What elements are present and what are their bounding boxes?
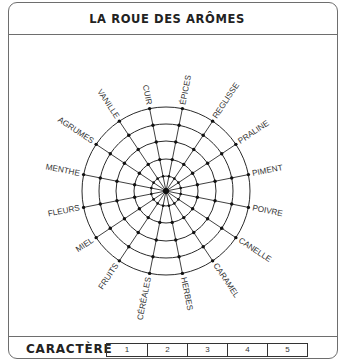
rating-dot[interactable] (173, 177, 176, 180)
aroma-label: MENTHE (45, 162, 81, 178)
aroma-label: CANELLE (237, 236, 273, 265)
rating-dot[interactable] (230, 202, 233, 205)
rating-dot[interactable] (99, 176, 102, 179)
rating-dot[interactable] (109, 152, 112, 155)
rating-dot[interactable] (213, 199, 216, 202)
wheel-intersection-dots[interactable] (82, 107, 250, 275)
rating-dot[interactable] (123, 162, 126, 165)
rating-dot[interactable] (148, 272, 151, 275)
rating-dot[interactable] (151, 124, 154, 127)
aroma-label: REGLISSE (211, 81, 242, 120)
rating-dot[interactable] (158, 158, 161, 161)
rating-dot[interactable] (192, 148, 195, 151)
rating-dot[interactable] (174, 140, 177, 143)
center-dot (163, 188, 169, 194)
rating-dot[interactable] (177, 198, 180, 201)
rating-dot[interactable] (191, 172, 194, 175)
rating-dot[interactable] (182, 163, 185, 166)
rating-dot[interactable] (230, 176, 233, 179)
rating-dot[interactable] (127, 134, 130, 137)
rating-dot[interactable] (196, 183, 199, 186)
aroma-label: PRALINE (236, 118, 271, 145)
rating-dot[interactable] (147, 163, 150, 166)
rating-dot[interactable] (118, 259, 121, 262)
rating-dot[interactable] (127, 245, 130, 248)
rating-dot[interactable] (211, 259, 214, 262)
rating-dot[interactable] (94, 236, 97, 239)
aroma-label: VANILLE (95, 88, 121, 121)
rating-dot[interactable] (181, 272, 184, 275)
rating-dot[interactable] (196, 196, 199, 199)
rating-dot[interactable] (234, 236, 237, 239)
rating-dot[interactable] (220, 227, 223, 230)
rating-dot[interactable] (177, 255, 180, 258)
aroma-label: MIEL (74, 236, 95, 254)
rating-dot[interactable] (151, 255, 154, 258)
rating-dot[interactable] (171, 158, 174, 161)
rating-dot[interactable] (162, 175, 165, 178)
rating-dot[interactable] (171, 221, 174, 224)
rating-dot[interactable] (177, 181, 180, 184)
rating-dot[interactable] (206, 162, 209, 165)
rating-dot[interactable] (168, 175, 171, 178)
rating-dot[interactable] (213, 180, 216, 183)
rating-dot[interactable] (202, 134, 205, 137)
rating-dot[interactable] (247, 173, 250, 176)
rating-dot[interactable] (156, 177, 159, 180)
rating-dot[interactable] (137, 231, 140, 234)
rating-dot[interactable] (94, 143, 97, 146)
rating-dot[interactable] (150, 193, 153, 196)
rating-dot[interactable] (179, 187, 182, 190)
rating-dot[interactable] (192, 231, 195, 234)
rating-dot[interactable] (82, 173, 85, 176)
rating-dot[interactable] (158, 221, 161, 224)
rating-dot[interactable] (155, 140, 158, 143)
aroma-label: CÉRÉALES (135, 276, 153, 321)
rating-dot[interactable] (123, 217, 126, 220)
rating-dot[interactable] (202, 245, 205, 248)
rating-dot[interactable] (155, 238, 158, 241)
aroma-label: AGRUMES (56, 115, 96, 146)
rating-dot[interactable] (133, 183, 136, 186)
rating-dot[interactable] (179, 193, 182, 196)
rating-dot[interactable] (181, 107, 184, 110)
rating-dot[interactable] (147, 216, 150, 219)
aroma-label: CUIR (141, 84, 154, 105)
rating-dot[interactable] (156, 202, 159, 205)
rating-dot[interactable] (109, 227, 112, 230)
rating-dot[interactable] (82, 206, 85, 209)
rating-dot[interactable] (99, 202, 102, 205)
rating-dot[interactable] (118, 119, 121, 122)
rating-dot[interactable] (138, 207, 141, 210)
rating-dot[interactable] (148, 107, 151, 110)
rating-dot[interactable] (174, 238, 177, 241)
rating-dot[interactable] (152, 181, 155, 184)
rating-dot[interactable] (247, 206, 250, 209)
rating-dot[interactable] (137, 148, 140, 151)
rating-dot[interactable] (133, 196, 136, 199)
rating-dot[interactable] (162, 204, 165, 207)
aroma-label: ÉPICES (177, 74, 193, 106)
rating-dot[interactable] (115, 180, 118, 183)
aroma-label: FRUITS (97, 261, 121, 291)
aroma-label: CARAMEL (211, 261, 241, 299)
rating-dot[interactable] (168, 204, 171, 207)
aroma-label: PIMENT (251, 163, 283, 178)
rating-dot[interactable] (177, 124, 180, 127)
rating-dot[interactable] (138, 172, 141, 175)
aroma-label: POIVRE (251, 203, 284, 218)
rating-dot[interactable] (182, 216, 185, 219)
aroma-label: FLEURS (47, 203, 81, 218)
rating-dot[interactable] (234, 143, 237, 146)
rating-dot[interactable] (211, 119, 214, 122)
rating-dot[interactable] (191, 207, 194, 210)
rating-dot[interactable] (220, 152, 223, 155)
rating-dot[interactable] (115, 199, 118, 202)
rating-dot[interactable] (206, 217, 209, 220)
rating-dot[interactable] (150, 187, 153, 190)
aroma-label: HERBES (179, 276, 195, 311)
rating-dot[interactable] (173, 202, 176, 205)
rating-dot[interactable] (152, 198, 155, 201)
